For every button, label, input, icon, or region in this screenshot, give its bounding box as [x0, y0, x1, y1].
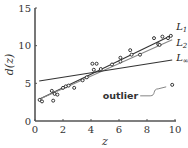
data-point — [52, 99, 55, 102]
series-label-L1: L1 — [175, 21, 187, 34]
data-point — [95, 62, 98, 65]
data-point — [119, 60, 122, 63]
data-point — [139, 53, 142, 56]
data-point — [56, 93, 59, 96]
data-point — [130, 53, 133, 56]
x-tick-label: 8 — [144, 124, 150, 135]
data-point — [85, 76, 88, 79]
series-line-L∞ — [39, 60, 172, 81]
data-point — [99, 68, 102, 71]
x-tick-label: 0 — [32, 124, 38, 135]
data-point — [81, 79, 84, 82]
data-point — [67, 84, 70, 87]
x-tick-label: 2 — [60, 124, 66, 135]
data-point — [161, 35, 164, 38]
series-label-sub: ∞ — [183, 57, 188, 65]
y-tick-label: 10 — [18, 40, 31, 51]
series-label-sub: 2 — [182, 42, 188, 50]
data-point — [119, 56, 122, 59]
data-point — [73, 86, 76, 89]
x-axis-label: z — [101, 135, 108, 148]
labels: L1L2L∞outlier — [103, 21, 188, 101]
x-tick-label: 4 — [88, 124, 94, 135]
data-point — [153, 37, 156, 40]
outlier-leader-line — [140, 87, 166, 96]
x-tick-label: 6 — [116, 124, 122, 135]
data-point — [167, 37, 170, 40]
series-label-sub: 1 — [183, 26, 187, 34]
data-point — [92, 68, 95, 71]
data-point — [158, 43, 161, 46]
data-point — [50, 89, 53, 92]
y-axis-label: d(z) — [3, 54, 16, 75]
data-point — [91, 62, 94, 65]
x-tick-label: 10 — [169, 124, 182, 135]
series-label-L2: L2 — [175, 37, 188, 50]
outlier-point — [171, 83, 174, 86]
data-point — [169, 34, 172, 37]
data-point — [41, 100, 44, 103]
data-point — [111, 63, 114, 66]
chart: 0246810051015zd(z) L1L2L∞outlier — [0, 0, 188, 148]
data-point — [129, 49, 132, 52]
outlier-annotation: outlier — [103, 90, 139, 101]
y-tick-label: 0 — [25, 116, 31, 127]
series-label-L∞: L∞ — [175, 52, 188, 65]
y-tick-label: 5 — [25, 78, 31, 89]
y-tick-label: 15 — [18, 3, 31, 14]
